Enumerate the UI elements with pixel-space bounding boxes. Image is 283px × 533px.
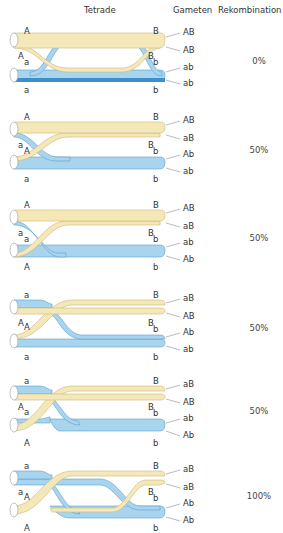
allele-label: a: [18, 488, 23, 497]
gamete-label: AB: [183, 46, 195, 55]
allele-label: A: [24, 263, 30, 272]
allele-label: a: [24, 462, 29, 471]
gamete-label: AB: [183, 312, 195, 321]
gamete-label: aB: [183, 483, 194, 492]
allele-label: b: [153, 263, 158, 272]
allele-label: B: [153, 462, 159, 471]
gamete-label: AB: [183, 398, 195, 407]
recombination-value: 50%: [242, 324, 276, 333]
header-tetrade: Tetrade: [84, 5, 116, 15]
gamete-label: ab: [183, 345, 194, 354]
gamete-label: ab: [183, 238, 194, 247]
tetrad-panel-1: A a A a B B b b AB aB Ab ab 50%: [0, 111, 283, 197]
tetrad-diagram: [0, 199, 283, 285]
allele-label: b: [153, 147, 158, 156]
allele-label: a: [24, 408, 29, 417]
allele-label: A: [24, 147, 30, 156]
allele-label: a: [18, 229, 23, 238]
gamete-label: Ab: [183, 431, 194, 440]
gamete-label: ab: [183, 414, 194, 423]
gamete-label: ab: [183, 79, 194, 88]
allele-label: b: [153, 235, 158, 244]
allele-label: b: [153, 86, 158, 95]
allele-label: b: [153, 175, 158, 184]
allele-label: a: [24, 58, 29, 67]
allele-label: a: [24, 353, 29, 362]
allele-label: b: [153, 439, 158, 448]
allele-label: a: [24, 86, 29, 95]
allele-label: b: [153, 524, 158, 533]
allele-label: b: [153, 353, 158, 362]
gamete-label: AB: [183, 204, 195, 213]
gamete-label: Ab: [183, 499, 194, 508]
gamete-label: aB: [183, 465, 194, 474]
allele-label: a: [18, 141, 23, 150]
gamete-label: aB: [183, 294, 194, 303]
gamete-label: AB: [183, 116, 195, 125]
allele-label: a: [24, 291, 29, 300]
header-gameten: Gameten: [173, 5, 212, 15]
gamete-label: Ab: [183, 150, 194, 159]
gamete-label: AB: [183, 28, 195, 37]
tetrad-diagram: [0, 111, 283, 197]
tetrad-diagram: [0, 22, 283, 108]
tetrad-panel-5: a a A A B B b b aB aB Ab Ab 100%: [0, 460, 283, 533]
allele-label: B: [153, 201, 159, 210]
tetrad-panel-4: a A a A B B b b aB AB ab Ab 50%: [0, 375, 283, 461]
allele-label: B: [153, 27, 159, 36]
allele-label: A: [24, 201, 30, 210]
tetrad-diagram: [0, 460, 283, 533]
allele-label: a: [24, 235, 29, 244]
allele-label: b: [153, 58, 158, 67]
allele-label: a: [24, 175, 29, 184]
tetrad-panel-0: A A a a B B b b AB AB ab ab 0%: [0, 22, 283, 108]
allele-label: B: [153, 291, 159, 300]
recombination-value: 50%: [242, 407, 276, 416]
allele-label: B: [153, 113, 159, 122]
tetrad-panel-3: a A A a B B b b aB AB Ab ab 50%: [0, 289, 283, 375]
gamete-label: Ab: [183, 516, 194, 525]
allele-label: A: [24, 439, 30, 448]
tetrad-diagram: [0, 375, 283, 461]
gamete-label: Ab: [183, 328, 194, 337]
allele-label: A: [24, 27, 30, 36]
recombination-value: 0%: [242, 57, 276, 66]
gamete-label: aB: [183, 134, 194, 143]
allele-label: A: [24, 113, 30, 122]
header-rekombination: Rekombination: [218, 5, 282, 15]
allele-label: B: [153, 377, 159, 386]
gamete-label: ab: [183, 63, 194, 72]
recombination-value: 50%: [242, 146, 276, 155]
allele-label: A: [18, 403, 24, 412]
allele-label: b: [153, 494, 158, 503]
gamete-label: aB: [183, 222, 194, 231]
gamete-label: aB: [183, 380, 194, 389]
allele-label: A: [24, 323, 30, 332]
allele-label: A: [24, 524, 30, 533]
gamete-label: ab: [183, 167, 194, 176]
recombination-value: 50%: [242, 234, 276, 243]
allele-label: b: [153, 325, 158, 334]
allele-label: b: [153, 409, 158, 418]
allele-label: A: [18, 52, 24, 61]
allele-label: A: [24, 493, 30, 502]
gamete-label: Ab: [183, 255, 194, 264]
allele-label: A: [18, 319, 24, 328]
tetrad-panel-2: A a a A B B b b AB aB ab Ab 50%: [0, 199, 283, 285]
tetrad-diagram: [0, 289, 283, 375]
allele-label: a: [24, 377, 29, 386]
recombination-value: 100%: [242, 492, 276, 501]
